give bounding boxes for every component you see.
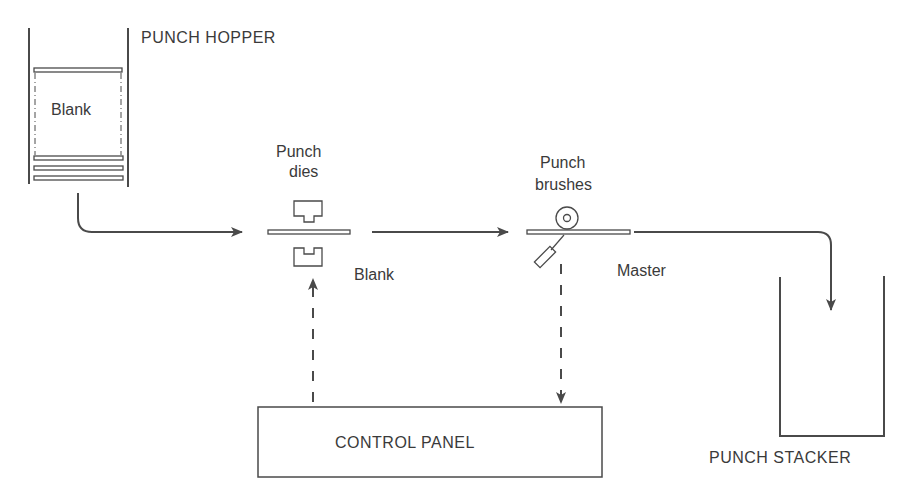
hopper-blank-label: Blank: [51, 101, 92, 118]
lower-punch-die: [294, 248, 322, 266]
brush-roller: [556, 207, 578, 229]
punch-dies-label-line2: dies: [289, 163, 318, 180]
punch-dies: [268, 201, 350, 266]
hopper-card: [34, 156, 123, 160]
brush-arm: [551, 235, 564, 250]
punch-process-diagram: PUNCH HOPPER Blank Punch dies Blank Punc…: [0, 0, 906, 502]
punch-brushes-label-line2: brushes: [535, 176, 592, 193]
punch-brushes-label-line1: Punch: [540, 154, 585, 171]
hopper-card: [34, 176, 123, 180]
blank-card-at-dies: [268, 230, 350, 234]
dies-blank-label: Blank: [354, 266, 395, 283]
punch-brushes: [527, 207, 630, 268]
brush-roller-axle: [564, 215, 571, 222]
punch-hopper-label: PUNCH HOPPER: [141, 29, 276, 46]
control-panel-label: CONTROL PANEL: [335, 434, 475, 451]
punch-dies-label-line1: Punch: [276, 143, 321, 160]
brush-holder: [534, 246, 555, 267]
flow-arrow-hopper-to-dies: [78, 193, 242, 232]
punch-stacker-label: PUNCH STACKER: [709, 449, 851, 466]
master-card-at-brushes: [527, 230, 630, 234]
upper-punch-die: [294, 201, 322, 222]
hopper-card: [34, 166, 123, 170]
brushes-master-label: Master: [617, 262, 667, 279]
hopper-card-top: [34, 68, 122, 72]
